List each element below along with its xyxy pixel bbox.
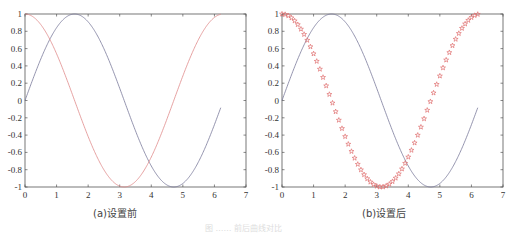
series-line-sin (282, 14, 478, 187)
series-line-sin (25, 14, 221, 187)
y-tick-label: -0.8 (265, 165, 280, 175)
x-tick-label: 4 (149, 190, 154, 200)
y-tick-label: -1 (272, 182, 280, 192)
y-tick-label: 0.4 (268, 61, 280, 71)
x-tick-label: 3 (117, 190, 122, 200)
axes-box (25, 14, 246, 187)
x-tick-label: 3 (374, 190, 379, 200)
y-tick-label: 0.6 (11, 44, 23, 54)
x-tick-label: 5 (181, 190, 186, 200)
x-tick-label: 6 (469, 190, 474, 200)
x-tick-label: 1 (311, 190, 316, 200)
y-tick-label: 0.2 (268, 78, 279, 88)
x-tick-label: 1 (54, 190, 59, 200)
series-line-cos (25, 14, 221, 187)
x-tick-label: 0 (280, 190, 285, 200)
y-tick-label: 0 (18, 96, 23, 106)
y-tick-label: 0.8 (11, 26, 23, 36)
chart-b: 01234567-1-0.8-0.6-0.4-0.200.20.40.60.81 (265, 9, 506, 200)
y-tick-label: 0.2 (11, 78, 22, 88)
x-tick-label: 5 (438, 190, 443, 200)
x-tick-label: 7 (244, 190, 249, 200)
caption-b: (b)设置后 (362, 205, 406, 220)
axes-box (282, 14, 503, 187)
figure-caption: 图 …… 前后曲线对比 (205, 222, 282, 233)
y-tick-label: -0.6 (8, 147, 23, 157)
y-tick-label: -1 (15, 182, 23, 192)
y-tick-label: -0.2 (265, 113, 279, 123)
x-tick-label: 6 (212, 190, 217, 200)
x-tick-label: 2 (86, 190, 91, 200)
caption-a: (a)设置前 (93, 205, 137, 220)
y-tick-label: 0.8 (268, 26, 280, 36)
x-tick-label: 4 (406, 190, 411, 200)
figure-canvas: 01234567-1-0.8-0.6-0.4-0.200.20.40.60.81… (0, 0, 509, 234)
x-tick-label: 2 (343, 190, 348, 200)
x-tick-label: 7 (501, 190, 506, 200)
y-tick-label: 0.6 (268, 44, 280, 54)
x-tick-label: 0 (23, 190, 28, 200)
y-tick-label: 0.4 (11, 61, 23, 71)
y-tick-label: -0.4 (265, 130, 280, 140)
y-tick-label: -0.2 (8, 113, 22, 123)
y-tick-label: 1 (275, 9, 280, 19)
y-tick-label: -0.6 (265, 147, 280, 157)
y-tick-label: -0.8 (8, 165, 23, 175)
y-tick-label: 0 (275, 96, 280, 106)
y-tick-label: 1 (18, 9, 23, 19)
series-markers-cos (280, 11, 481, 189)
chart-a: 01234567-1-0.8-0.6-0.4-0.200.20.40.60.81 (8, 9, 249, 200)
y-tick-label: -0.4 (8, 130, 23, 140)
